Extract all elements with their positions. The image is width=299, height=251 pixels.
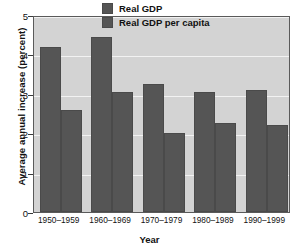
legend-label: Real GDP (119, 3, 162, 14)
bar-real-gdp[interactable] (40, 47, 61, 212)
bar-group (246, 17, 288, 212)
plot-area (33, 16, 290, 213)
legend-swatch-icon (102, 3, 113, 14)
chart-legend: Real GDPReal GDP per capita (102, 3, 210, 28)
x-tick-label: 1950–1959 (30, 215, 88, 225)
legend-item[interactable]: Real GDP (102, 3, 210, 14)
bar-real-gdp-per-capita[interactable] (61, 110, 82, 212)
bar-real-gdp[interactable] (143, 84, 164, 212)
x-tick-label: 1980–1989 (184, 215, 242, 225)
legend-swatch-icon (102, 17, 113, 28)
bar-real-gdp[interactable] (246, 90, 267, 212)
bar-real-gdp[interactable] (194, 92, 215, 212)
x-tick-label: 1960–1969 (81, 215, 139, 225)
y-tick-label: 4 (6, 50, 28, 61)
x-tick-label: 1990–1999 (235, 215, 293, 225)
bar-real-gdp[interactable] (91, 37, 112, 212)
x-tick-label: 1970–1979 (133, 215, 191, 225)
legend-label: Real GDP per capita (119, 17, 210, 28)
bar-group (91, 17, 133, 212)
bar-real-gdp-per-capita[interactable] (164, 133, 185, 212)
x-axis-ticks: 1950–19591960–19691970–19791980–19891990… (33, 215, 290, 229)
y-tick-label: 3 (6, 89, 28, 100)
bar-real-gdp-per-capita[interactable] (267, 125, 288, 212)
x-axis-title: Year (0, 234, 299, 245)
bar-group (143, 17, 185, 212)
y-tick-label: 0 (6, 208, 28, 219)
y-tick-mark (28, 213, 33, 214)
bar-group (194, 17, 236, 212)
bar-real-gdp-per-capita[interactable] (215, 123, 236, 212)
bar-group (40, 17, 82, 212)
legend-item[interactable]: Real GDP per capita (102, 17, 210, 28)
y-tick-label: 2 (6, 129, 28, 140)
chart-figure: Average annual increase (percent) 012345… (0, 0, 299, 251)
bar-real-gdp-per-capita[interactable] (112, 92, 133, 212)
y-tick-label: 5 (6, 11, 28, 22)
y-tick-label: 1 (6, 168, 28, 179)
